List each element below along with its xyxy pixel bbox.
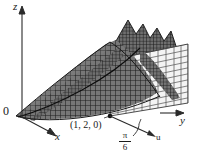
surface-plot-figure: z x y 0 (1, 2, 0) u π 6 (0, 0, 198, 160)
z-axis-label: z (13, 1, 17, 12)
angle-fraction-label: π 6 (118, 131, 132, 152)
angle-denominator: 6 (118, 143, 132, 152)
y-axis-label: y (180, 115, 185, 126)
origin-label: 0 (3, 105, 9, 117)
direction-vector-label: u (156, 133, 161, 142)
point-label: (1, 2, 0) (70, 120, 102, 130)
z-axis-arrowhead (19, 6, 25, 14)
u-arrowhead (147, 130, 156, 137)
angle-tick (139, 119, 141, 124)
plot-canvas (0, 0, 198, 160)
angle-numerator: π (118, 131, 132, 140)
x-axis-label: x (55, 131, 60, 142)
angle-arc (133, 124, 139, 136)
